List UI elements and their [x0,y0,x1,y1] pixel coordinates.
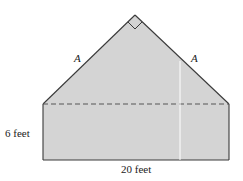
label-right-slant: A [190,52,198,64]
label-left-slant: A [73,52,81,64]
house-diagram: A A 6 feet 20 feet [0,0,243,181]
label-height: 6 feet [5,127,30,139]
label-width: 20 feet [121,163,151,175]
house-shape [43,15,229,160]
